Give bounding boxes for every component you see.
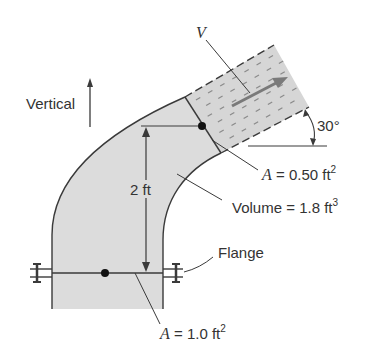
angle-arrow-bottom-icon [310, 138, 316, 146]
height-label: 2 ft [130, 181, 152, 198]
flange-leader [184, 257, 213, 272]
flange-label: Flange [218, 244, 264, 261]
outlet-area-label: A = 0.50 ft2 [261, 164, 337, 183]
inlet-area-label: A = 1.0 ft2 [159, 323, 226, 342]
outlet-centroid-dot [198, 122, 206, 130]
pipe-bend-body [52, 97, 221, 309]
volume-label: Volume = 1.8 ft3 [232, 197, 338, 216]
vertical-label: Vertical [26, 95, 75, 112]
velocity-label: V [196, 24, 208, 41]
pipe-bend-diagram: 2 ft Vertical V 30° A = 0.50 ft2 Volume … [0, 0, 389, 359]
angle-label: 30° [317, 117, 340, 134]
left-flange-icon [30, 264, 52, 282]
inlet-centroid-dot [101, 269, 109, 277]
volume-leader [177, 174, 222, 200]
vertical-arrow-head-icon [87, 78, 93, 87]
right-flange-icon [163, 264, 183, 282]
